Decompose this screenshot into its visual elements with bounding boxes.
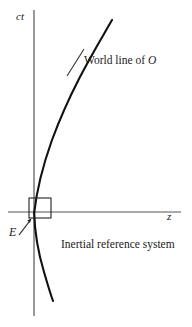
world-line-curve-lower	[34, 213, 53, 301]
inertial-frame-caption: Inertial reference system	[61, 239, 175, 251]
world-line-curve-upper	[34, 20, 112, 213]
world-line-annotation: World line of O	[84, 55, 156, 67]
diagram-canvas	[0, 0, 192, 327]
z-axis-label: z	[167, 211, 171, 222]
spacetime-diagram-figure: ct z E World line of O Inertial referenc…	[0, 0, 192, 327]
event-highlight-box	[29, 198, 51, 218]
world-line-annotation-prefix: World line of	[84, 54, 148, 66]
world-line-annotation-observer: O	[148, 54, 156, 66]
event-label-E: E	[9, 226, 16, 238]
event-pointer-arrow	[19, 219, 32, 236]
ct-axis-label: ct	[16, 11, 24, 22]
